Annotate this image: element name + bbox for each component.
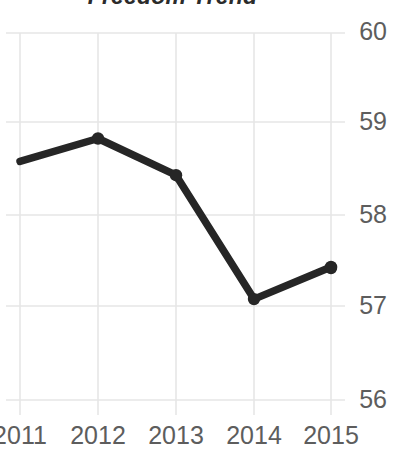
y-tick-label-58: 58	[343, 202, 387, 227]
y-tick-label-60: 60	[343, 19, 387, 44]
data-point-2013	[248, 293, 260, 305]
data-point-2015	[325, 262, 337, 274]
y-tick-label-56: 56	[343, 387, 387, 412]
y-tick-label-57: 57	[343, 293, 387, 318]
line-chart-svg	[0, 0, 393, 451]
vertical-gridlines	[20, 33, 331, 415]
x-tick-label-2015: 2015	[286, 423, 376, 448]
data-point-2012	[170, 169, 182, 181]
data-point-2011	[92, 132, 104, 144]
chart-plot-area: 60 59 58 57 56 2011 2012 2013 2014 2015	[0, 0, 393, 451]
x-tick-label-2013: 2013	[131, 423, 221, 448]
x-tick-label-2012: 2012	[53, 423, 143, 448]
y-tick-label-59: 59	[343, 109, 387, 134]
